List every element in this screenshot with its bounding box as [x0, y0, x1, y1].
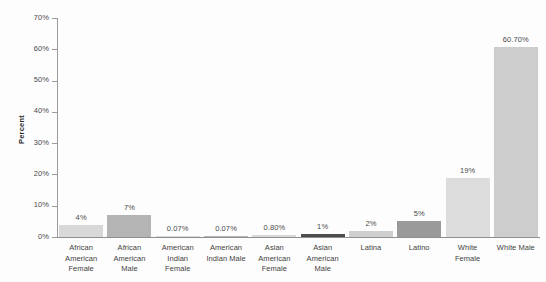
x-axis-label-line: Indian	[154, 254, 202, 265]
x-axis-label: Latina	[347, 243, 395, 254]
bar-value-label: 1%	[317, 222, 328, 231]
bar-value-label: 60.70%	[503, 35, 529, 44]
bar[interactable]	[301, 234, 345, 237]
x-axis-label: WhiteFemale	[443, 243, 491, 264]
x-axis-label: Latino	[395, 243, 443, 254]
x-axis-label: AsianAmericanFemale	[250, 243, 298, 275]
bar[interactable]	[397, 221, 441, 237]
x-axis-line	[57, 237, 540, 238]
x-axis-label-line: American	[57, 254, 105, 265]
x-axis-label-line: White	[443, 243, 491, 254]
x-axis-label-line: Male	[105, 264, 153, 275]
y-tick-label: 10%	[34, 200, 49, 209]
y-tick-label: 30%	[34, 138, 49, 147]
x-axis-label: AfricanAmericanFemale	[57, 243, 105, 275]
x-axis-label-line: American	[202, 243, 250, 254]
x-axis-label-line: African	[57, 243, 105, 254]
x-axis-label-line: Female	[250, 264, 298, 275]
x-axis-label-line: Asian	[250, 243, 298, 254]
bar-slot: 1%	[299, 18, 347, 237]
x-axis-label: AsianAmericanMale	[299, 243, 347, 275]
bar[interactable]	[204, 236, 248, 237]
bar-slot: 0.07%	[202, 18, 250, 237]
y-tick-0: 0%	[52, 237, 57, 238]
y-tick-label: 0%	[38, 232, 49, 241]
bar-value-label: 2%	[365, 219, 376, 228]
bar-slot: 5%	[395, 18, 443, 237]
bar-value-label: 19%	[460, 166, 475, 175]
x-axis-label-line: Female	[57, 264, 105, 275]
bar-slot: 0.07%	[154, 18, 202, 237]
bar-value-label: 0.07%	[215, 224, 237, 233]
x-axis-label: White Male	[492, 243, 540, 254]
x-axis-label-line: American	[250, 254, 298, 265]
bar[interactable]	[446, 178, 490, 237]
bar-slot: 19%	[443, 18, 491, 237]
bar[interactable]	[494, 47, 538, 237]
bar-slot: 0.80%	[250, 18, 298, 237]
x-axis-label-line: Latina	[347, 243, 395, 254]
bar[interactable]	[252, 235, 296, 238]
x-axis-label-line: American	[154, 243, 202, 254]
x-axis-label-line: African	[105, 243, 153, 254]
bar-slot: 4%	[57, 18, 105, 237]
bar[interactable]	[107, 215, 151, 237]
bar-slot: 7%	[105, 18, 153, 237]
y-axis-title: Percent	[14, 90, 28, 170]
bar-value-label: 0.07%	[167, 224, 189, 233]
x-axis-label: AmericanIndian Male	[202, 243, 250, 264]
x-axis-label-line: American	[105, 254, 153, 265]
y-tick-label: 20%	[34, 169, 49, 178]
bar-value-label: 5%	[414, 209, 425, 218]
x-axis-label-line: Female	[443, 254, 491, 265]
x-axis-label-line: Indian Male	[202, 254, 250, 265]
y-tick-label: 60%	[34, 44, 49, 53]
x-axis-label-line: White Male	[492, 243, 540, 254]
y-tick-label: 50%	[34, 75, 49, 84]
bar-slot: 2%	[347, 18, 395, 237]
x-axis-label-line: Male	[299, 264, 347, 275]
bar[interactable]	[59, 225, 103, 238]
bar-slot: 60.70%	[492, 18, 540, 237]
y-tick-label: 70%	[34, 13, 49, 22]
x-axis-label-line: Female	[154, 264, 202, 275]
bar-chart: Percent 0%10%20%30%40%50%60%70% 4%7%0.07…	[0, 0, 546, 282]
x-axis-label-line: Asian	[299, 243, 347, 254]
bar-value-label: 0.80%	[263, 223, 285, 232]
bar-value-label: 7%	[124, 203, 135, 212]
bar[interactable]	[156, 236, 200, 237]
x-axis-label: AfricanAmericanMale	[105, 243, 153, 275]
bar-value-label: 4%	[76, 213, 87, 222]
x-axis-label-line: Latino	[395, 243, 443, 254]
bar[interactable]	[349, 231, 393, 237]
x-axis-label: AmericanIndianFemale	[154, 243, 202, 275]
x-axis-label-line: American	[299, 254, 347, 265]
plot-area: 4%7%0.07%0.07%0.80%1%2%5%19%60.70%	[57, 18, 540, 237]
y-tick-label: 40%	[34, 106, 49, 115]
